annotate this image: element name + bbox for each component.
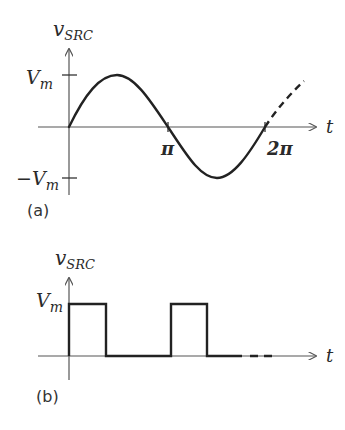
y-axis-label-a: vSRC [53, 17, 93, 43]
pulse-waveform [69, 304, 242, 356]
sine-continuation-dashed [265, 81, 304, 127]
tick-label-pi: π [160, 138, 175, 159]
tick-label-2pi: 2π [266, 138, 294, 159]
panel-b: vSRC t Vm (b) [36, 246, 334, 406]
x-axis-label-a: t [326, 116, 334, 137]
tick-label-neg-vm-a: −Vm [16, 167, 59, 193]
panel-label-a: (a) [27, 201, 49, 220]
y-axis-label-b: vSRC [55, 246, 95, 272]
panel-a: vSRC t Vm −Vm π 2π (a) [16, 17, 334, 220]
panel-label-b: (b) [36, 387, 59, 406]
tick-label-vm-b: Vm [36, 289, 63, 315]
x-axis-label-b: t [326, 345, 334, 366]
tick-label-vm-a: Vm [26, 66, 53, 92]
figure: vSRC t Vm −Vm π 2π (a) vSRC t Vm (b) [0, 0, 345, 430]
